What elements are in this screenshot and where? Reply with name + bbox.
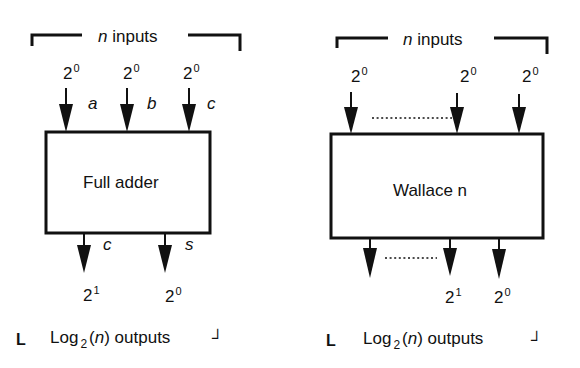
- left-footer-corner-right: ┘: [212, 330, 223, 346]
- left-input-weight-c: 20: [183, 65, 200, 82]
- left-input-arrow-b: [120, 88, 134, 132]
- right-inputs-bracket-left: [337, 38, 388, 48]
- left-inputs-header: n inputs: [98, 28, 158, 45]
- left-inputs-header-text: inputs: [112, 27, 157, 46]
- right-inputs-bracket-right: [494, 38, 547, 54]
- left-input-arrow-a: [59, 88, 73, 132]
- right-output-weight-1: 21: [445, 289, 462, 306]
- full-adder-label: Full adder: [83, 174, 159, 191]
- right-footer-corner-right: ┘: [531, 332, 542, 348]
- right-input-arrow-1: [344, 92, 358, 134]
- right-input-arrow-3: [512, 94, 526, 134]
- right-outputs-footer: Log2(n) outputs: [363, 330, 483, 347]
- left-input-label-a: a: [88, 95, 97, 112]
- left-output-label-s: s: [185, 236, 194, 253]
- left-output-arrow-s: [158, 233, 172, 273]
- right-input-weight-1: 20: [351, 68, 368, 85]
- left-inputs-bracket-right: [188, 35, 240, 51]
- right-input-weight-3: 20: [522, 68, 539, 85]
- right-inputs-header: n inputs: [403, 31, 463, 48]
- left-output-label-c: c: [103, 236, 112, 253]
- right-output-weight-0: 20: [494, 289, 511, 306]
- left-inputs-header-var: n: [98, 27, 107, 46]
- right-output-arrow-3: [492, 238, 506, 279]
- left-input-label-c: c: [207, 95, 216, 112]
- right-output-arrow-2: [443, 238, 457, 276]
- wallace-label: Wallace n: [393, 182, 467, 199]
- left-outputs-footer: Log2(n) outputs: [50, 329, 170, 346]
- left-input-weight-a: 20: [63, 65, 80, 82]
- right-input-weight-2: 20: [460, 68, 477, 85]
- left-output-weight-s: 20: [165, 288, 182, 305]
- right-inputs-header-var: n: [403, 30, 412, 49]
- left-input-arrow-c: [182, 88, 196, 132]
- left-output-arrow-c: [77, 233, 91, 273]
- left-inputs-bracket-left: [32, 35, 82, 46]
- right-output-arrow-1: [363, 238, 377, 278]
- right-inputs-header-text: inputs: [417, 30, 462, 49]
- left-input-weight-b: 20: [123, 65, 140, 82]
- left-input-label-b: b: [147, 95, 156, 112]
- right-footer-corner-left: L: [326, 333, 336, 349]
- left-footer-corner-left: L: [16, 332, 26, 348]
- left-output-weight-c: 21: [83, 287, 100, 304]
- right-input-arrow-2: [450, 93, 464, 134]
